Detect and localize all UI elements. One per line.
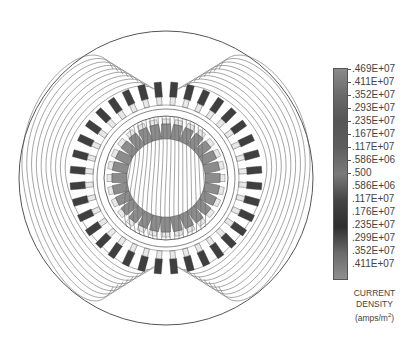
stator-slot	[169, 82, 178, 106]
stator-slot	[70, 166, 94, 175]
stator-slot-tip	[143, 248, 150, 257]
stator-slot-tip	[182, 248, 189, 257]
legend-tick-mark	[347, 173, 351, 174]
stator-winding	[70, 182, 86, 190]
stator-slot	[138, 248, 151, 272]
stator-winding	[184, 255, 195, 271]
legend-tick-label: .586E+06	[352, 155, 395, 165]
stator-slot-tip	[170, 251, 176, 259]
stator-slot	[182, 248, 195, 272]
stator-slot	[154, 82, 163, 106]
stator-slot	[194, 243, 210, 267]
rotor-bar-neck	[162, 232, 170, 237]
rotor-bar-body	[162, 217, 171, 232]
rotor-bar	[205, 174, 225, 183]
stator-slot	[238, 181, 262, 190]
stator-slot	[72, 150, 96, 163]
stator-slot	[236, 194, 260, 207]
stator-slot-tip	[239, 182, 247, 188]
rotor-bar	[107, 174, 127, 183]
legend-tick-mark	[347, 95, 351, 96]
stator-slot	[96, 227, 117, 248]
stator-slot-tip	[85, 168, 93, 174]
flux-line	[60, 82, 153, 273]
legend-tick-mark	[347, 82, 351, 83]
stator-slot	[231, 134, 255, 150]
stator-winding	[122, 250, 135, 267]
flux-line	[22, 55, 113, 301]
flux-line	[179, 82, 272, 273]
stator-winding	[243, 196, 259, 207]
stator-slot	[236, 150, 260, 163]
stator-slot	[78, 206, 102, 222]
stator-winding	[246, 182, 262, 190]
stator-winding	[122, 90, 135, 107]
stator-slot	[122, 243, 138, 267]
flux-line	[219, 55, 310, 301]
stator-slot-tip	[170, 97, 176, 105]
legend-tick-label: .235E+07	[352, 220, 395, 230]
stator-winding	[243, 150, 259, 161]
stator-slot-tip	[156, 251, 162, 259]
stator-slot-tip	[85, 182, 93, 188]
stator-winding	[170, 82, 178, 98]
stator-slot	[215, 108, 236, 129]
stator-slot	[169, 250, 178, 274]
stator-slot-tip	[156, 97, 162, 105]
stator-winding	[170, 258, 178, 274]
legend-caption-line3: (amps/m2)	[330, 310, 419, 324]
legend-tick-label: .500	[352, 168, 371, 178]
stator-slot	[231, 206, 255, 222]
stator-slot-tip	[143, 99, 150, 108]
stator-winding	[197, 90, 210, 107]
stator-slot	[205, 236, 224, 259]
stator-winding	[138, 84, 149, 100]
stator-winding	[70, 166, 86, 174]
legend-tick-mark	[347, 108, 351, 109]
stator-winding	[184, 84, 195, 100]
legend-tick-label: .411E+07	[352, 259, 394, 269]
legend-tick-label: .293E+07	[352, 103, 395, 113]
legend-tick-mark	[347, 69, 351, 70]
stator-winding	[78, 209, 95, 222]
stator-slot	[108, 236, 127, 259]
stator-slot-tip	[236, 155, 245, 162]
stator-slot	[205, 97, 224, 120]
legend-caption-line1: CURRENT	[330, 288, 419, 299]
stator-slot	[108, 97, 127, 120]
stator-winding	[72, 150, 88, 161]
stator-slot	[182, 84, 195, 108]
stator-slot	[72, 194, 96, 207]
stator-winding	[72, 196, 88, 207]
stator-slot	[154, 250, 163, 274]
stator-slot-tip	[236, 194, 245, 201]
stator-slot	[122, 90, 138, 114]
stator-slot	[138, 84, 151, 108]
stator-slot-tip	[87, 194, 96, 201]
stator-winding	[78, 134, 95, 147]
legend-tick-label: .352E+07	[352, 90, 395, 100]
stator-winding	[154, 82, 162, 98]
rotor-bar-body	[112, 174, 127, 183]
legend-tick-label: .176E+07	[352, 207, 395, 217]
motor-field-plot	[0, 0, 330, 344]
rotor-bar	[162, 217, 171, 237]
stator-slot	[194, 90, 210, 114]
legend-tick-label: .117E+07	[352, 194, 394, 204]
stator-slot	[85, 120, 108, 139]
legend-tick-label: .167E+07	[352, 129, 395, 139]
stator-winding	[246, 166, 262, 174]
stator-winding	[197, 250, 210, 267]
color-bar	[333, 68, 348, 280]
legend-tick-mark	[347, 134, 351, 135]
stator-slot	[238, 166, 262, 175]
stator-slot	[70, 181, 94, 190]
rotor-bar-body	[205, 174, 220, 183]
stator-slot	[224, 217, 247, 236]
stator-slot-tip	[87, 155, 96, 162]
legend-tick-label: .586E+06	[352, 181, 395, 191]
stator-slot	[96, 108, 117, 129]
stator-winding	[154, 258, 162, 274]
stator-slot-tip	[182, 99, 189, 108]
legend-tick-label: .299E+07	[352, 233, 395, 243]
